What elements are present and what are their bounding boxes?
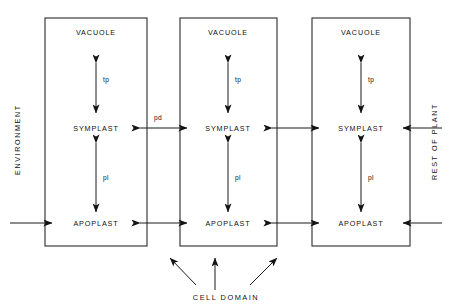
cell-1-group: VACUOLE tp SYMPLAST pl APOPLAST [45, 18, 147, 246]
cell-2-group: VACUOLE tp SYMPLAST pl APOPLAST [180, 18, 277, 246]
cell-domain-label: CELL DOMAIN [193, 293, 259, 302]
cell-3-plasmalemma-label: pl [368, 174, 374, 182]
cell-2-vacuole-label: VACUOLE [208, 28, 248, 37]
cell-2-tonoplast-label: tp [235, 76, 241, 84]
cell-1-vacuole-label: VACUOLE [76, 28, 116, 37]
cell-3-apoplast-label: APOPLAST [338, 219, 383, 228]
cell-3-symplast-label: SYMPLAST [338, 124, 384, 133]
cell-2-apoplast-label: APOPLAST [205, 219, 250, 228]
plasmodesmata-label: pd [154, 114, 162, 122]
rest-of-plant-label: REST OF PLANT [430, 103, 439, 180]
cell-1-tonoplast-label: tp [103, 76, 109, 84]
cell-3-vacuole-label: VACUOLE [341, 28, 381, 37]
cell-2-plasmalemma-label: pl [235, 174, 241, 182]
cell-1-plasmalemma-label: pl [103, 174, 109, 182]
cell-domain-diagram: VACUOLE tp SYMPLAST pl APOPLAST VACUOLE … [0, 0, 452, 307]
cell-3-tonoplast-label: tp [368, 76, 374, 84]
cell-1-symplast-label: SYMPLAST [73, 124, 119, 133]
environment-label: ENVIRONMENT [13, 104, 22, 175]
cell-1-apoplast-label: APOPLAST [73, 219, 118, 228]
cell-3-group: VACUOLE tp SYMPLAST pl APOPLAST [312, 18, 410, 246]
cell-domain-callout-arrows [170, 258, 277, 290]
cell-2-symplast-label: SYMPLAST [205, 124, 251, 133]
